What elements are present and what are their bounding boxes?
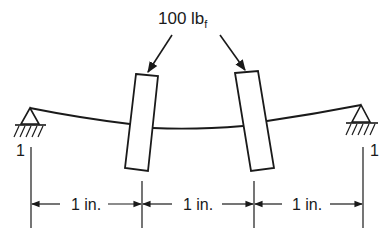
support-left-label: 1 [16, 142, 25, 159]
shaft-segment-left [30, 108, 130, 124]
load-block-left [125, 74, 158, 171]
load-arrow-left [148, 35, 172, 72]
svg-text:1 in.: 1 in. [292, 196, 322, 213]
pin-support-left [14, 108, 46, 137]
beam-diagram: 100 lbf 1 1 [0, 0, 392, 240]
load-label: 100 lbf [158, 9, 208, 30]
dimension-1: 1 in. [32, 196, 141, 213]
support-right-label: 1 [370, 142, 379, 159]
svg-text:1 in.: 1 in. [71, 196, 101, 213]
dimension-3: 1 in. [255, 196, 362, 213]
load-arrow-right [220, 35, 245, 70]
pin-support-right [346, 105, 378, 135]
svg-text:1 in.: 1 in. [183, 196, 213, 213]
dimension-2: 1 in. [143, 196, 253, 213]
dimension-extension-lines [31, 147, 363, 228]
shaft-segment-middle [153, 126, 243, 129]
shaft-segment-right [267, 105, 361, 121]
